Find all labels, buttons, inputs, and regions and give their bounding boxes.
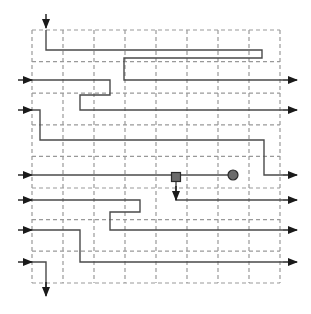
routing-diagram-figure xyxy=(0,0,311,314)
marker-circle xyxy=(228,170,238,180)
routing-diagram-canvas xyxy=(0,0,311,314)
marker-square xyxy=(172,173,181,182)
